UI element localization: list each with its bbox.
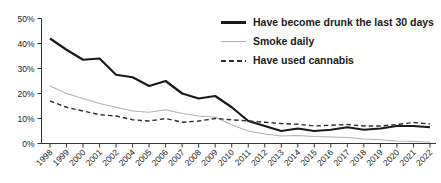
legend-item-cannabis: Have used cannabis <box>221 51 434 70</box>
y-tick-label: 10% <box>17 114 34 124</box>
x-tick-label: 2008 <box>183 147 204 168</box>
x-tick-label: 2001 <box>84 147 105 168</box>
x-tick-label: 2021 <box>397 147 418 168</box>
chart-legend: Have become drunk the last 30 days Smoke… <box>221 13 434 70</box>
legend-label-drunk: Have become drunk the last 30 days <box>253 17 434 28</box>
legend-item-smoke: Smoke daily <box>221 32 434 51</box>
legend-swatch-solid-thin-icon <box>221 41 246 42</box>
x-tick-label: 2019 <box>364 147 385 168</box>
x-tick-label: 2018 <box>348 147 369 168</box>
x-tick-label: 2004 <box>117 147 138 168</box>
x-tick-label: 2010 <box>216 147 237 168</box>
legend-label-cannabis: Have used cannabis <box>253 55 354 66</box>
y-tick-label: 30% <box>17 64 34 74</box>
x-tick-label: 2005 <box>133 147 154 168</box>
y-tick-label: 20% <box>17 89 34 99</box>
x-tick-label: 2012 <box>249 147 270 168</box>
x-tick-label: 2016 <box>315 147 336 168</box>
x-tick-label: 2007 <box>166 147 187 168</box>
x-tick-label: 2022 <box>414 147 435 168</box>
legend-label-smoke: Smoke daily <box>253 36 314 47</box>
x-tick-label: 2017 <box>331 147 352 168</box>
y-tick-label: 50% <box>17 14 34 24</box>
y-tick-label: 0% <box>22 139 35 149</box>
x-tick-label: 2002 <box>100 147 121 168</box>
x-tick-label: 1998 <box>34 147 55 168</box>
legend-swatch-solid-thick-icon <box>221 21 246 24</box>
x-tick-label: 1999 <box>50 147 71 168</box>
y-tick-label: 40% <box>17 39 34 49</box>
x-tick-label: 2009 <box>199 147 220 168</box>
x-tick-label: 2020 <box>381 147 402 168</box>
x-tick-label: 2006 <box>150 147 171 168</box>
chart: 0%10%20%30%40%50%19981999200020012002200… <box>0 0 441 183</box>
x-tick-label: 2011 <box>233 147 253 167</box>
x-tick-label: 2013 <box>265 147 286 168</box>
legend-item-drunk: Have become drunk the last 30 days <box>221 13 434 32</box>
x-tick-label: 2000 <box>67 147 88 168</box>
x-tick-label: 2015 <box>298 147 319 168</box>
x-tick-label: 2014 <box>282 147 303 168</box>
legend-swatch-dashed-icon <box>221 60 246 62</box>
